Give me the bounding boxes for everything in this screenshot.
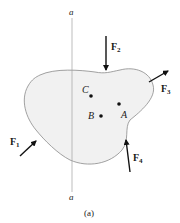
point-a-dot — [117, 102, 121, 106]
force-f1-label: F1 — [10, 136, 20, 149]
force-f3-label: F3 — [161, 83, 171, 96]
rigid-body-diagram: a a C A B F2 F3 F1 F4 (a) — [0, 0, 180, 223]
point-b-label: B — [88, 110, 94, 121]
figure-caption: (a) — [84, 208, 94, 218]
point-c-label: C — [82, 84, 89, 95]
force-f2-label: F2 — [111, 41, 121, 54]
axis-label-top: a — [69, 7, 74, 17]
force-f3-arrow — [149, 71, 168, 82]
point-a-label: A — [120, 109, 128, 120]
point-c-dot — [89, 94, 93, 98]
force-f4-label: F4 — [133, 152, 143, 165]
point-b-dot — [99, 114, 103, 118]
axis-label-bottom: a — [69, 192, 74, 202]
force-f4-arrow — [126, 140, 130, 172]
force-f1-arrow — [20, 141, 36, 156]
